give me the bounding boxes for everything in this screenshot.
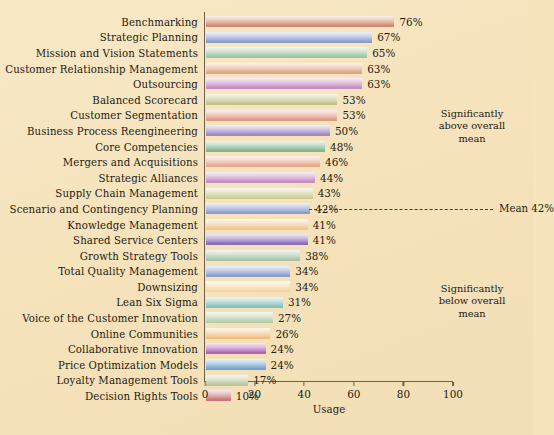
bar-category-label: Supply Chain Management: [55, 188, 198, 199]
bar-value-label: 67%: [377, 31, 400, 43]
bar-category-label: Lean Six Sigma: [116, 297, 198, 308]
x-axis-tick: 60: [347, 382, 360, 400]
x-axis-tick-mark: [254, 382, 255, 386]
x-axis-tick: 80: [397, 382, 410, 400]
bar-value-label: 50%: [335, 125, 358, 137]
bar: [206, 203, 310, 214]
bar: [206, 78, 362, 89]
bar: [206, 266, 290, 277]
bar-row: Outsourcing63%: [205, 76, 453, 92]
x-axis-tick-mark: [304, 382, 305, 386]
bar-category-label: Business Process Reengineering: [27, 125, 198, 136]
annotation-below-line-1: Significantly: [419, 283, 525, 295]
x-axis-tick-label: 20: [248, 388, 261, 400]
bar-row: Shared Service Centers41%: [205, 232, 453, 248]
x-axis-tick-label: 80: [397, 388, 410, 400]
mean-dashed-line: [309, 209, 493, 210]
bar-value-label: 24%: [271, 343, 294, 355]
bar-value-label: 53%: [342, 109, 365, 121]
x-axis-tick-label: 40: [298, 388, 311, 400]
bar-value-label: 44%: [320, 172, 343, 184]
annotation-below-mean: Significantly below overall mean: [419, 283, 525, 320]
bar-category-label: Mergers and Acquisitions: [63, 157, 198, 168]
bar-row: Knowledge Management41%: [205, 217, 453, 233]
bar: [206, 141, 325, 152]
bar-value-label: 34%: [295, 265, 318, 277]
bar-category-label: Decision Rights Tools: [85, 391, 198, 402]
x-axis-tick: 20: [248, 382, 261, 400]
bar-row: Core Competencies48%: [205, 139, 453, 155]
bar: [206, 219, 308, 230]
bar: [206, 312, 273, 323]
bar-row: Collaborative Innovation24%: [205, 341, 453, 357]
bar: [206, 156, 320, 167]
bar-category-label: Benchmarking: [121, 16, 198, 27]
bar-value-label: 43%: [318, 187, 341, 199]
bar-value-label: 65%: [372, 47, 395, 59]
bar-row: Supply Chain Management43%: [205, 186, 453, 202]
bar: [206, 110, 337, 121]
annotation-above-mean: Significantly above overall mean: [419, 108, 525, 145]
bar-row: Customer Segmentation53%: [205, 108, 453, 124]
bar-value-label: 46%: [325, 156, 348, 168]
bar: [206, 188, 313, 199]
bar-category-label: Online Communities: [91, 328, 198, 339]
bar-category-label: Strategic Planning: [100, 32, 198, 43]
bar-row: Business Process Reengineering50%: [205, 123, 453, 139]
bar: [206, 172, 315, 183]
bar-value-label: 53%: [342, 94, 365, 106]
x-axis-tick-label: 100: [443, 388, 463, 400]
bar-value-label: 31%: [288, 296, 311, 308]
bar-value-label: 27%: [278, 312, 301, 324]
bar: [206, 47, 367, 58]
annotation-above-line-3: mean: [419, 133, 525, 145]
bar-category-label: Total Quality Management: [58, 266, 198, 277]
bar-category-label: Voice of the Customer Innovation: [22, 313, 198, 324]
bar: [206, 359, 266, 370]
bar-category-label: Customer Relationship Management: [5, 63, 198, 74]
bar-row: Strategic Planning67%: [205, 30, 453, 46]
bar-category-label: Customer Segmentation: [70, 110, 198, 121]
bar-value-label: 38%: [305, 250, 328, 262]
bar: [206, 125, 330, 136]
bar-category-label: Balanced Scorecard: [92, 94, 198, 105]
bar-row: Customer Relationship Management63%: [205, 61, 453, 77]
bar-value-label: 41%: [313, 234, 336, 246]
plot-area: Benchmarking76%Strategic Planning67%Miss…: [205, 14, 453, 380]
bar: [206, 63, 362, 74]
x-axis-tick: 40: [298, 382, 311, 400]
bar-row: Lean Six Sigma31%: [205, 295, 453, 311]
bar-category-label: Core Competencies: [95, 141, 198, 152]
x-axis-title: Usage: [205, 404, 453, 415]
mean-value-label: Mean 42%: [499, 203, 554, 214]
x-axis-tick-mark: [204, 382, 205, 386]
bar: [206, 297, 283, 308]
bar-value-label: 41%: [313, 219, 336, 231]
x-axis-tick: 0: [202, 382, 209, 400]
bar-category-label: Mission and Vision Statements: [36, 47, 198, 58]
annotation-below-line-2: below overall: [419, 295, 525, 307]
bar-value-label: 76%: [399, 16, 422, 28]
bar: [206, 343, 266, 354]
annotation-above-line-1: Significantly: [419, 108, 525, 120]
bar-category-label: Collaborative Innovation: [68, 344, 198, 355]
bar-category-label: Loyalty Management Tools: [56, 375, 198, 386]
bar-category-label: Downsizing: [137, 281, 198, 292]
bar-value-label: 24%: [271, 359, 294, 371]
bar: [206, 328, 270, 339]
bar-row: Growth Strategy Tools38%: [205, 248, 453, 264]
bar: [206, 94, 337, 105]
bar-category-label: Price Optimization Models: [58, 359, 198, 370]
bar: [206, 32, 372, 43]
bar-row: Total Quality Management34%: [205, 264, 453, 280]
bar-category-label: Strategic Alliances: [99, 172, 199, 183]
x-axis-tick-mark: [403, 382, 404, 386]
bar-row: Mergers and Acquisitions46%: [205, 154, 453, 170]
bar-value-label: 48%: [330, 141, 353, 153]
bar-row: Online Communities26%: [205, 326, 453, 342]
bar-value-label: 63%: [367, 78, 390, 90]
x-axis-tick-mark: [353, 382, 354, 386]
bar: [206, 234, 308, 245]
bar-row: Price Optimization Models24%: [205, 357, 453, 373]
bar-category-label: Shared Service Centers: [73, 235, 198, 246]
